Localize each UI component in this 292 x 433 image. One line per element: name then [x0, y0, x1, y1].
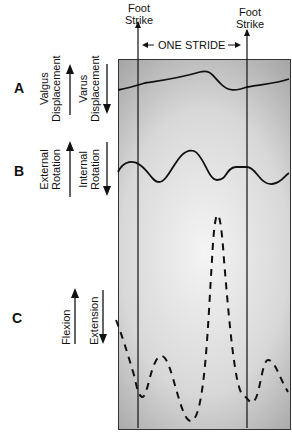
- curve-a: [118, 71, 289, 90]
- up-arrow-icon: [71, 288, 79, 298]
- stride-label: ONE STRIDE: [158, 39, 225, 51]
- curve-b: [118, 151, 289, 185]
- down-arrow-icon: [103, 186, 111, 196]
- stride-arrow-left: [142, 42, 148, 48]
- foot-strike-arrow-right: [244, 29, 250, 36]
- curve-c: [116, 215, 288, 421]
- row-letter-b: B: [14, 163, 24, 179]
- row-letter-c: C: [12, 310, 22, 326]
- label-flexion: Flexion: [60, 310, 72, 345]
- label-external-rotation: External Rotation: [38, 149, 62, 190]
- label-varus: Varus Displacement: [77, 55, 101, 122]
- up-arrow-icon: [66, 141, 74, 151]
- up-arrow-icon: [66, 64, 74, 74]
- label-valgus: Valgus Displacement: [38, 55, 62, 122]
- down-arrow-icon: [99, 334, 107, 344]
- foot-strike-label-right: Foot Strike: [232, 6, 268, 30]
- label-extension: Extension: [88, 297, 100, 345]
- down-arrow-icon: [103, 104, 111, 114]
- foot-strike-label-left: Foot Strike: [121, 2, 157, 26]
- label-internal-rotation: Internal Rotation: [77, 149, 101, 190]
- row-letter-a: A: [14, 80, 24, 96]
- stride-arrow-right: [235, 42, 241, 48]
